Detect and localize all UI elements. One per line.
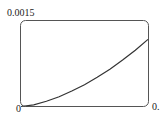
data-curve [21,39,148,106]
plot-frame [21,21,149,107]
plot-area [0,0,161,115]
